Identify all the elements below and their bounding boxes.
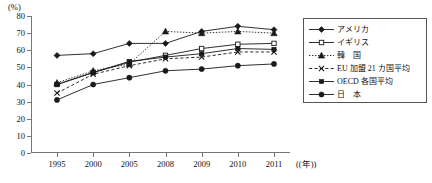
data-point-marker — [54, 52, 60, 58]
data-point-marker — [127, 75, 132, 80]
x-axis-tick-label: 2000 — [85, 160, 102, 169]
x-axis-unit-label: ((年)) — [296, 160, 316, 169]
y-axis-tick-label: 50 — [17, 63, 26, 72]
x-axis-tick-label: 2010 — [229, 160, 246, 169]
legend-marker-icon — [308, 76, 335, 87]
data-point-marker — [163, 40, 169, 46]
legend-marker-icon — [308, 89, 335, 100]
data-point-marker — [272, 47, 276, 51]
x-axis-tick-label: 2009 — [193, 160, 210, 169]
y-axis-tick-label: 60 — [17, 46, 26, 55]
y-axis-tick — [27, 153, 31, 154]
x-axis-tick-label: 2008 — [157, 160, 174, 169]
x-axis-tick-label: 2005 — [121, 160, 138, 169]
data-point-marker — [163, 55, 167, 59]
data-point-marker — [200, 52, 204, 56]
x-axis-tick — [202, 153, 203, 157]
legend-item-label: イギリス — [337, 38, 369, 47]
legend-item-label: アメリカ — [337, 25, 369, 34]
data-point-marker — [54, 90, 59, 95]
data-point-marker — [236, 42, 240, 46]
legend-item-label: EU 加盟 21 カ国平均 — [337, 64, 410, 73]
data-point-marker — [91, 70, 95, 74]
x-axis-tick — [166, 153, 167, 157]
data-point-marker — [54, 97, 59, 102]
x-axis-tick — [129, 153, 130, 157]
x-axis-tick — [57, 153, 58, 157]
data-point-marker — [91, 82, 96, 87]
data-point-marker — [235, 63, 240, 68]
chart-figure: (%) 01020304050607080 199520002005200820… — [0, 0, 432, 183]
legend-item-4[interactable]: EU 加盟 21 カ国平均 — [308, 62, 423, 75]
data-point-marker — [126, 40, 132, 46]
series-5 — [55, 46, 276, 86]
data-point-marker — [199, 46, 203, 50]
legend-item-label: 韓 国 — [337, 51, 361, 60]
legend-marker-icon — [308, 24, 335, 35]
data-point-marker — [271, 61, 276, 66]
legend-marker-icon — [308, 50, 335, 61]
y-axis-tick-label: 30 — [17, 98, 26, 107]
data-point-marker — [163, 68, 168, 73]
y-axis-tick-label: 20 — [17, 115, 26, 124]
data-point-marker — [272, 41, 276, 45]
x-axis-tick — [274, 153, 275, 157]
y-axis-tick-label: 0 — [21, 149, 25, 158]
series-2 — [55, 41, 276, 87]
x-axis-tick-label: 2011 — [266, 160, 283, 169]
data-point-marker — [162, 28, 168, 34]
data-point-marker — [127, 59, 131, 63]
series-lines-layer — [31, 16, 290, 153]
y-axis-tick-label: 40 — [17, 81, 26, 90]
series-line — [57, 43, 274, 84]
legend-item-2[interactable]: イギリス — [308, 36, 423, 49]
legend-item-1[interactable]: アメリカ — [308, 23, 423, 36]
legend-item-6[interactable]: 日 本 — [308, 88, 423, 101]
plot-area: 01020304050607080 1995200020052008200920… — [31, 16, 290, 153]
series-6 — [54, 61, 276, 102]
data-point-marker — [199, 66, 204, 71]
data-point-marker — [236, 46, 240, 50]
legend-item-label: OECD 各国平均 — [337, 77, 393, 86]
data-point-marker — [55, 82, 59, 86]
legend-item-label: 日 本 — [337, 90, 361, 99]
y-axis-tick-label: 70 — [17, 29, 26, 38]
data-point-marker — [90, 51, 96, 57]
legend-item-5[interactable]: OECD 各国平均 — [308, 75, 423, 88]
legend-marker-icon — [308, 63, 335, 74]
legend-marker-icon — [308, 37, 335, 48]
legend-item-3[interactable]: 韓 国 — [308, 49, 423, 62]
legend: アメリカイギリス韓 国EU 加盟 21 カ国平均OECD 各国平均日 本 — [303, 18, 427, 103]
x-axis-tick-label: 1995 — [49, 160, 66, 169]
x-axis-tick — [238, 153, 239, 157]
y-axis-tick-label: 10 — [17, 132, 26, 141]
y-axis-tick-label: 80 — [17, 12, 26, 21]
x-axis-tick — [93, 153, 94, 157]
